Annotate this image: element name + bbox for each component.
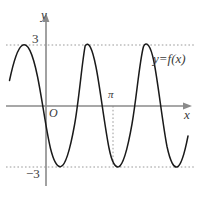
y-tick-label-minus-3: −3 [26,167,40,180]
curve-name-label: y=f(x) [153,52,186,65]
y-tick-label-3: 3 [32,32,39,45]
function-graph-figure: y x O 3 −3 π y=f(x) [0,0,198,200]
x-tick-label-pi: π [108,89,114,100]
x-axis-label: x [184,108,190,121]
origin-label: O [49,107,58,119]
y-axis-label: y [41,8,47,21]
